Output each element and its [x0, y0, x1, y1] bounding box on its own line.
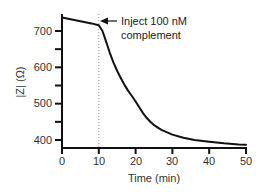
arrow-head-icon: [100, 18, 108, 25]
annotation-line-1: Inject 100 nM: [121, 15, 187, 27]
injection-annotation: Inject 100 nM complement: [100, 15, 187, 41]
y-tick-label-400: 400: [34, 134, 52, 146]
impedance-time-chart: 700 600 500 400 0 10 20 30 40 50 Time (m…: [0, 0, 265, 195]
x-axis-title: Time (min): [128, 172, 180, 184]
y-ticks: [55, 31, 62, 140]
y-axis-title: |Z| (Ω): [14, 66, 26, 97]
x-tick-label-40: 40: [203, 155, 215, 167]
y-tick-label-600: 600: [34, 61, 52, 73]
annotation-line-2: complement: [121, 29, 181, 41]
x-tick-label-20: 20: [130, 155, 142, 167]
x-tick-label-50: 50: [240, 155, 252, 167]
x-tick-label-30: 30: [166, 155, 178, 167]
x-tick-label-10: 10: [93, 155, 105, 167]
x-tick-label-0: 0: [59, 155, 65, 167]
y-tick-label-500: 500: [34, 97, 52, 109]
y-tick-label-700: 700: [34, 25, 52, 37]
